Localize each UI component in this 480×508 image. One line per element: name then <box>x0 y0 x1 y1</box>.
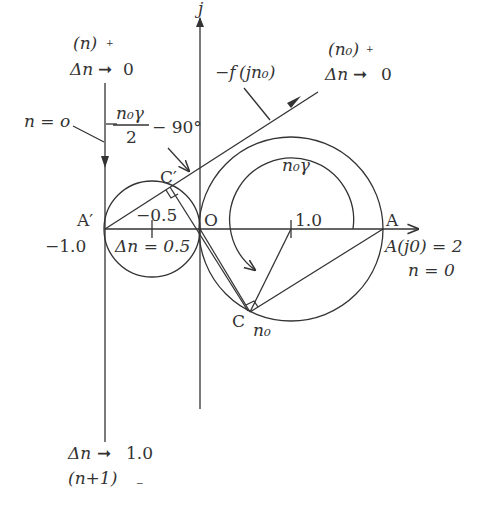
label-n0-at-C: n₀ <box>253 320 271 340</box>
label-angle-numerator: n₀γ <box>116 103 145 123</box>
leader-n-equals-o <box>73 126 104 142</box>
label-j: j <box>194 0 204 18</box>
label-n-equals-o: n = o <box>24 111 70 131</box>
label-A: A <box>385 210 399 230</box>
incoming-arrow-icon <box>287 96 301 108</box>
label-bottom-delta: Δn <box>67 443 91 463</box>
label-top-left-state: (n) <box>73 33 97 53</box>
label-n0gamma: n₀γ <box>282 155 311 175</box>
right-angle-mark-C <box>246 301 258 307</box>
arrow-right-bottom: ➞ <box>97 443 111 463</box>
label-bottom-sign: − <box>136 478 144 488</box>
label-bottom-limit: 1.0 <box>126 443 153 463</box>
label-Aprime: A′ <box>76 210 93 230</box>
label-one: 1.0 <box>295 210 322 230</box>
label-top-right-limit: 0 <box>381 64 392 84</box>
label-origin: O <box>204 210 218 230</box>
label-top-right-delta: Δn <box>324 64 348 84</box>
label-top-left-limit: 0 <box>123 59 134 79</box>
label-top-right-sign: + <box>366 44 374 54</box>
label-delta-half: Δn = 0.5 <box>114 236 190 256</box>
label-A-j0: A(j0) = 2 <box>383 236 463 256</box>
label-angle-offset: − 90° <box>152 117 202 137</box>
label-neg-f-prefix: −f <box>215 62 238 82</box>
chord-O-C <box>200 229 250 312</box>
label-top-left-delta: Δn <box>69 59 93 79</box>
label-bottom-state: (n+1) <box>68 468 117 488</box>
label-n-zero: n = 0 <box>408 260 455 280</box>
nyquist-circle-diagram: j (n) + Δn ➞ 0 n = o n₀γ 2 − 90° −f (jn₀… <box>0 0 480 508</box>
label-C: C <box>232 311 245 331</box>
leader-neg-f <box>244 88 270 120</box>
label-top-left-sign: + <box>106 38 114 48</box>
label-neg-one: −1.0 <box>45 236 86 256</box>
label-top-right-state: (n₀) <box>328 39 359 59</box>
label-angle-denominator: 2 <box>126 127 137 147</box>
down-arrow-icon <box>101 156 109 168</box>
arrow-right-top-right: ➞ <box>353 64 367 84</box>
arrow-right-top-left: ➞ <box>98 59 112 79</box>
label-Cprime: C′ <box>160 167 177 187</box>
label-neg-f-arg: (jn₀) <box>239 62 275 82</box>
label-neg-half: −0.5 <box>136 205 177 225</box>
